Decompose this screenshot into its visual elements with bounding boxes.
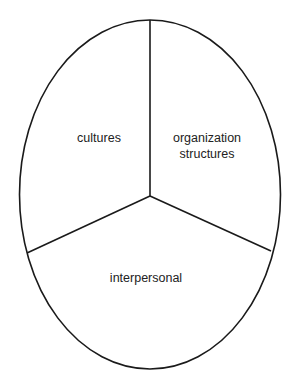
sector-label-organization-structures: organization structures bbox=[173, 130, 241, 162]
label-line-2: structures bbox=[173, 146, 241, 162]
sector-label-cultures: cultures bbox=[77, 130, 121, 146]
label-line-1: organization bbox=[173, 130, 241, 146]
three-part-ellipse-diagram bbox=[0, 0, 295, 390]
sector-label-interpersonal: interpersonal bbox=[110, 270, 182, 286]
divider-right bbox=[150, 196, 271, 251]
divider-left bbox=[27, 196, 150, 253]
